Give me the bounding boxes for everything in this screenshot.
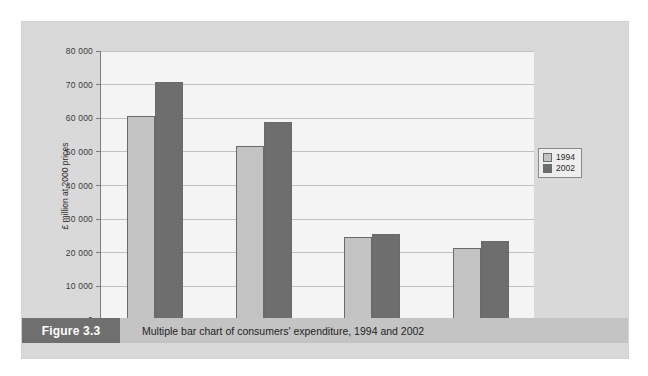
bar — [453, 248, 481, 319]
bar — [481, 241, 509, 319]
bar — [264, 122, 292, 319]
bar — [344, 237, 372, 319]
figure-root: £ million at 2000 prices 010 00020 00030… — [0, 0, 648, 376]
legend-swatch-icon — [543, 153, 552, 162]
y-axis-tick-label: 80 000 — [66, 46, 93, 56]
legend-item: 1994 — [543, 152, 575, 163]
y-axis-tick — [96, 151, 101, 152]
y-axis-tick — [96, 51, 101, 52]
y-axis-tick — [96, 286, 101, 287]
figure-panel: £ million at 2000 prices 010 00020 00030… — [22, 22, 628, 358]
y-axis-tick-label: 70 000 — [66, 80, 93, 90]
y-axis-tick-label: 40 000 — [66, 181, 93, 191]
bar — [236, 146, 264, 319]
legend-item: 2002 — [543, 163, 575, 174]
plot-area: 010 00020 00030 00040 00050 00060 00070 … — [100, 51, 534, 320]
y-axis-tick-label: 50 000 — [66, 147, 93, 157]
y-axis-tick — [96, 185, 101, 186]
chart-legend: 1994 2002 — [538, 148, 582, 178]
bar — [127, 116, 155, 319]
figure-number-tag: Figure 3.3 — [22, 318, 120, 343]
y-gridline — [101, 51, 534, 52]
bar — [155, 82, 183, 319]
y-axis-tick — [96, 252, 101, 253]
y-axis-tick — [96, 219, 101, 220]
y-axis-tick-label: 30 000 — [66, 214, 93, 224]
legend-label: 2002 — [556, 163, 575, 174]
legend-label: 1994 — [556, 152, 575, 163]
bar — [372, 234, 400, 319]
chart-area: £ million at 2000 prices 010 00020 00030… — [22, 22, 628, 307]
y-axis-tick-label: 60 000 — [66, 113, 93, 123]
y-axis-tick-label: 10 000 — [66, 281, 93, 291]
plot-inner: 010 00020 00030 00040 00050 00060 00070 … — [101, 51, 534, 319]
y-axis-tick — [96, 84, 101, 85]
y-axis-tick — [96, 118, 101, 119]
figure-caption-text: Multiple bar chart of consumers' expendi… — [120, 318, 628, 343]
figure-caption-bar: Figure 3.3 Multiple bar chart of consume… — [22, 318, 628, 343]
y-axis-tick-label: 20 000 — [66, 248, 93, 258]
legend-swatch-icon — [543, 164, 552, 173]
